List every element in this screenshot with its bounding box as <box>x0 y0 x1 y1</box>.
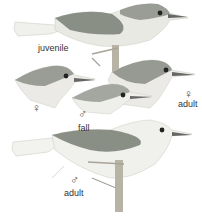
adult-female-label: adult <box>178 100 198 109</box>
juvenile-label: juvenile <box>38 44 69 53</box>
adult-male-label: adult <box>64 189 84 198</box>
male-symbol-fall: ♂ <box>78 108 87 120</box>
female-symbol-left: ♀ <box>32 102 41 114</box>
bird-plate: juvenile ♀ ♂ fall ♀ adult ♂ adult <box>0 0 202 223</box>
adult-male-bird-figure <box>12 120 192 212</box>
fall-label: fall <box>78 124 90 133</box>
male-symbol-adult: ♂ <box>70 174 79 186</box>
bird-illustrations <box>0 0 202 223</box>
